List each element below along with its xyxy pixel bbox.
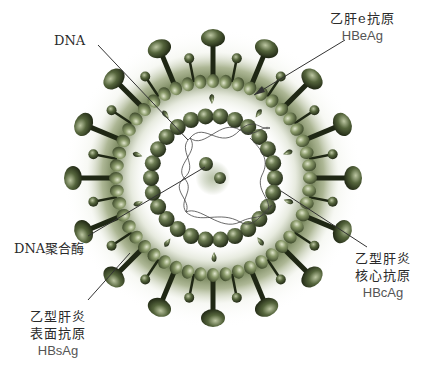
capsid-bead	[183, 112, 199, 128]
capsid-bead	[212, 232, 228, 248]
small-spike-knob	[184, 293, 194, 303]
spike-cap	[201, 29, 225, 47]
capsid-bead	[143, 170, 159, 186]
small-spike-knob	[309, 105, 319, 115]
center-particle	[214, 172, 226, 184]
small-spike-knob	[309, 241, 319, 251]
envelope-bead	[207, 74, 219, 88]
small-spike-knob	[107, 105, 117, 115]
label-hbcag-en: HBcAg	[355, 284, 411, 301]
capsid-bead	[212, 108, 228, 124]
capsid-bead	[265, 185, 281, 201]
small-spike-knob	[232, 53, 242, 63]
capsid-bead	[145, 185, 161, 201]
spike-cap	[344, 166, 362, 190]
spike-cap	[201, 309, 225, 327]
small-spike-knob	[184, 53, 194, 63]
hbv-structure-diagram: DNA 乙肝e抗原 HBeAg DNA聚合酶 乙型肝炎 表面抗原 HBsAg 乙…	[0, 0, 427, 376]
spike-cap	[64, 166, 82, 190]
label-hbeag: 乙肝e抗原 HBeAg	[330, 10, 395, 44]
label-hbsag-cn1: 乙型肝炎	[30, 308, 86, 325]
label-hbcag-cn1: 乙型肝炎	[355, 250, 411, 267]
capsid-bead	[198, 232, 214, 248]
label-hbcag: 乙型肝炎 核心抗原 HBcAg	[355, 250, 411, 301]
label-hbsag-cn2: 表面抗原	[30, 325, 86, 342]
envelope-bead	[207, 268, 219, 282]
small-spike-knob	[276, 274, 286, 284]
capsid-bead	[150, 199, 166, 215]
capsid-bead	[227, 228, 243, 244]
small-spike-knob	[107, 241, 117, 251]
small-spike-knob	[140, 274, 150, 284]
label-dna: DNA	[54, 32, 85, 49]
small-spike-knob	[232, 293, 242, 303]
capsid-bead	[260, 141, 276, 157]
capsid-bead	[265, 155, 281, 171]
small-spike-knob	[328, 149, 338, 159]
label-hbeag-cn: 乙肝e抗原	[330, 10, 395, 27]
small-spike-knob	[140, 72, 150, 82]
label-dna-polymerase: DNA聚合酶	[14, 240, 84, 257]
label-hbeag-en: HBeAg	[330, 27, 395, 44]
capsid-bead	[267, 170, 283, 186]
small-spike-knob	[88, 149, 98, 159]
capsid-bead	[145, 155, 161, 171]
label-hbsag-en: HBsAg	[30, 342, 86, 359]
envelope-bead	[109, 172, 123, 184]
small-spike-knob	[88, 197, 98, 207]
capsid-bead	[198, 108, 214, 124]
small-spike-knob	[328, 197, 338, 207]
label-hbcag-cn2: 核心抗原	[355, 267, 411, 284]
envelope-bead	[303, 172, 317, 184]
label-hbsag: 乙型肝炎 表面抗原 HBsAg	[30, 308, 86, 359]
